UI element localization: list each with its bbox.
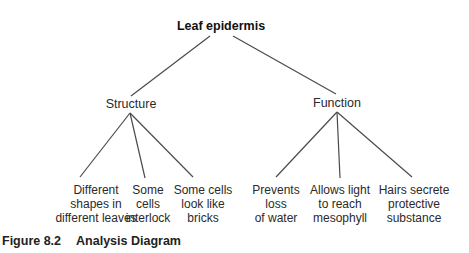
leaf-text-line: Some cells — [174, 183, 233, 197]
leaf-text-line: different leaves — [55, 211, 136, 225]
edge-function-to-child-1 — [337, 112, 340, 178]
edge-structure-to-child-0 — [80, 113, 130, 177]
leaf-text-line: to reach — [310, 197, 370, 211]
leaf-node-different-shapes: Different shapes in different leaves — [55, 183, 136, 225]
figure-title: Analysis Diagram — [76, 234, 181, 248]
leaf-text-line: Some — [126, 183, 171, 197]
leaf-node-allows-light: Allows light to reach mesophyll — [310, 183, 370, 225]
edge-structure-to-child-1 — [130, 113, 145, 178]
figure-number: Figure 8.2 — [2, 234, 61, 248]
leaf-text-line: mesophyll — [310, 211, 370, 225]
root-node-leaf-epidermis: Leaf epidermis — [177, 19, 265, 33]
edge-structure-to-child-2 — [130, 113, 193, 177]
edge-function-to-child-0 — [276, 112, 337, 177]
figure-caption: Figure 8.2 Analysis Diagram — [2, 234, 181, 248]
leaf-text-line: Prevents — [252, 183, 299, 197]
leaf-text-line: Different — [55, 183, 136, 197]
edge-function-to-child-2 — [337, 112, 412, 177]
leaf-text-line: substance — [379, 211, 450, 225]
leaf-text-line: protective — [379, 197, 450, 211]
edge-root-to-function — [233, 36, 336, 94]
leaf-text-line: Allows light — [310, 183, 370, 197]
leaf-node-cells-like-bricks: Some cells look like bricks — [174, 183, 233, 225]
leaf-text-line: look like — [174, 197, 233, 211]
leaf-node-prevents-water-loss: Prevents loss of water — [252, 183, 299, 225]
leaf-node-cells-interlock: Some cells interlock — [126, 183, 171, 225]
leaf-text-line: Hairs secrete — [379, 183, 450, 197]
branch-node-structure: Structure — [106, 97, 157, 111]
edge-root-to-structure — [131, 36, 210, 96]
leaf-node-hairs-secrete: Hairs secrete protective substance — [379, 183, 450, 225]
leaf-text-line: cells — [126, 197, 171, 211]
leaf-text-line: loss — [252, 197, 299, 211]
branch-node-function: Function — [313, 96, 361, 110]
leaf-text-line: shapes in — [55, 197, 136, 211]
leaf-text-line: bricks — [174, 211, 233, 225]
leaf-text-line: interlock — [126, 211, 171, 225]
leaf-text-line: of water — [252, 211, 299, 225]
